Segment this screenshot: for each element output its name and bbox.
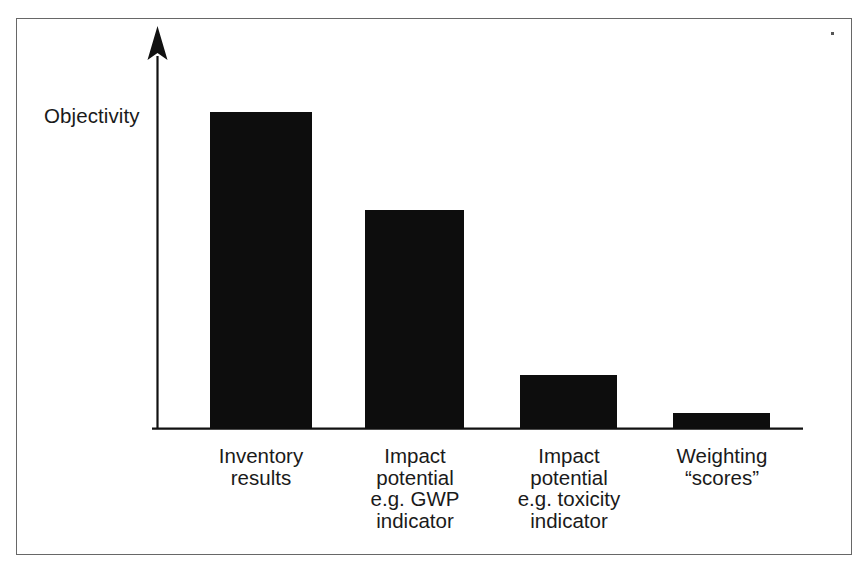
bar-impact-potential-toxicity [520, 375, 617, 429]
bar-chart-plot-area: Objectivity Inventory results Impact pot… [0, 0, 865, 566]
x-axis-category-label-inventory-results: Inventory results [176, 445, 346, 488]
bar-impact-potential-gwp [365, 210, 464, 429]
y-axis-label: Objectivity [44, 104, 140, 128]
x-axis-category-label-impact-potential-toxicity: Impact potential e.g. toxicity indicator [483, 445, 655, 531]
x-axis-category-label-weighting-scores: Weighting “scores” [636, 445, 808, 488]
x-axis-category-label-impact-potential-gwp: Impact potential e.g. GWP indicator [330, 445, 500, 531]
bar-weighting-scores [673, 413, 770, 429]
figure-canvas: Objectivity Inventory results Impact pot… [0, 0, 865, 566]
bar-inventory-results [210, 112, 312, 429]
y-axis-arrowhead [148, 26, 168, 60]
